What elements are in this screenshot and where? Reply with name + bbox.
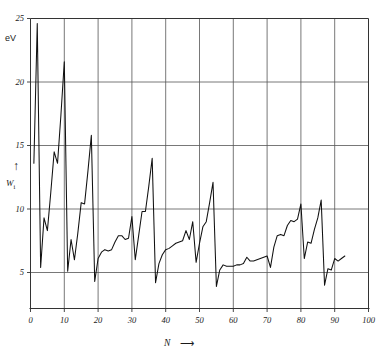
y-tick-label: 20 — [6, 77, 24, 87]
x-tick-label: 50 — [189, 315, 211, 325]
x-tick-label: 10 — [53, 315, 75, 325]
x-tick-label: 100 — [358, 315, 380, 325]
x-tick-label: 90 — [324, 315, 346, 325]
x-tick-label: 80 — [290, 315, 312, 325]
y-tick-label: 15 — [6, 140, 24, 150]
axis-ticks-group — [27, 19, 369, 313]
plot-canvas — [0, 0, 381, 364]
y-tick-label: 5 — [6, 267, 24, 277]
x-tick-label: 70 — [256, 315, 278, 325]
gridlines-group — [31, 19, 369, 309]
x-tick-label: 60 — [222, 315, 244, 325]
x-tick-label: 20 — [87, 315, 109, 325]
y-tick-label: 10 — [6, 204, 24, 214]
x-tick-label: 30 — [121, 315, 143, 325]
y-tick-label: 25 — [6, 13, 24, 23]
chart-root: eV ↑ Wi N ⟶ 510152025 010203040506070809… — [0, 0, 381, 364]
x-tick-label: 0 — [20, 315, 42, 325]
data-line-series — [34, 24, 345, 287]
x-tick-label: 40 — [155, 315, 177, 325]
